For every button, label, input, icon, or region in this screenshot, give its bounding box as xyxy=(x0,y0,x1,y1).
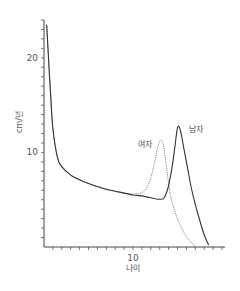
y-axis: 20 10 cm/년 xyxy=(14,20,44,247)
y-tick-label-10: 10 xyxy=(27,147,39,157)
y-tick-label-20: 20 xyxy=(27,53,39,63)
plot-series xyxy=(47,25,209,246)
male-series-label: 남자 xyxy=(189,125,204,134)
x-axis-title: 나이 xyxy=(126,263,140,273)
female-series-label: 여자 xyxy=(138,139,153,149)
female-growth-curve xyxy=(47,25,196,246)
x-axis: 10 나이 xyxy=(44,247,225,273)
male-growth-curve xyxy=(47,25,209,245)
y-axis-title: cm/년 xyxy=(14,111,24,133)
growth-velocity-chart: 20 10 cm/년 10 나이 여자 남자 xyxy=(0,0,240,291)
x-tick-label-10: 10 xyxy=(127,253,139,263)
